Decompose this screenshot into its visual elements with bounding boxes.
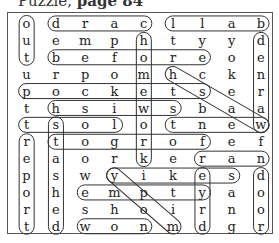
grid-letter: s — [41, 167, 70, 184]
grid-letter: r — [246, 83, 275, 100]
grid-letter: i — [129, 167, 158, 184]
grid-letter: t — [159, 116, 188, 133]
grid-letter: t — [12, 49, 41, 66]
grid-letter: o — [159, 133, 188, 150]
grid-letter: r — [71, 15, 100, 32]
grid-letter: c — [129, 15, 158, 32]
grid-letter: o — [129, 49, 158, 66]
page-title: Puzzle, page 84 — [18, 0, 143, 10]
grid-letter: w — [71, 167, 100, 184]
grid-letter: o — [71, 116, 100, 133]
grid-letter: m — [159, 218, 188, 235]
grid-letter: h — [159, 66, 188, 83]
grid-letter: g — [217, 218, 246, 235]
grid-letter: r — [129, 133, 158, 150]
grid-letter: f — [100, 49, 129, 66]
grid-letter: o — [71, 150, 100, 167]
grid-letter: k — [100, 83, 129, 100]
grid-letter: e — [129, 83, 158, 100]
grid-letter: g — [100, 133, 129, 150]
grid-letter: r — [100, 150, 129, 167]
grid-letter: s — [217, 167, 246, 184]
grid-letter: k — [217, 66, 246, 83]
grid-letter: c — [188, 66, 217, 83]
grid-letter: l — [100, 116, 129, 133]
grid-letter: p — [12, 167, 41, 184]
grid-letter: h — [129, 32, 158, 49]
grid-letter: a — [100, 15, 129, 32]
grid-letter: n — [246, 150, 275, 167]
grid-letter: i — [159, 201, 188, 218]
grid-letter: i — [100, 100, 129, 117]
grid-letter: e — [41, 32, 70, 49]
grid-letter: p — [100, 32, 129, 49]
grid-letter: m — [100, 184, 129, 201]
grid-letter: t — [12, 100, 41, 117]
grid-letter: b — [41, 49, 70, 66]
grid-letter: r — [159, 49, 188, 66]
grid-letter: w — [246, 116, 275, 133]
grid-letter: s — [71, 201, 100, 218]
grid-letter: d — [41, 15, 70, 32]
grid-letter: d — [246, 32, 275, 49]
grid-letter: o — [12, 184, 41, 201]
grid-letter: t — [159, 184, 188, 201]
grid-letter: t — [159, 32, 188, 49]
grid-letter: t — [12, 116, 41, 133]
grid-letter: w — [129, 100, 158, 117]
grid-letter: a — [217, 15, 246, 32]
grid-letter: r — [12, 133, 41, 150]
grid-letter: o — [246, 201, 275, 218]
grid-letter: e — [12, 150, 41, 167]
grid-letter: r — [188, 201, 217, 218]
grid-letter: b — [246, 15, 275, 32]
grid-letter: y — [188, 32, 217, 49]
grid-letter: s — [71, 100, 100, 117]
grid-letter: a — [217, 150, 246, 167]
grid-letter: f — [188, 133, 217, 150]
grid-letter: w — [71, 218, 100, 235]
grid-letter: o — [100, 66, 129, 83]
grid-letter: e — [71, 184, 100, 201]
grid-letter: h — [41, 100, 70, 117]
grid-letter: a — [217, 100, 246, 117]
grid-letter: o — [71, 133, 100, 150]
grid-letter: e — [159, 150, 188, 167]
grid-letter: s — [188, 83, 217, 100]
grid-letter: k — [159, 167, 188, 184]
grid-letter: t — [41, 133, 70, 150]
grid-letter: y — [188, 184, 217, 201]
grid-letter: e — [71, 49, 100, 66]
grid-letter: n — [246, 66, 275, 83]
grid-letter: d — [41, 218, 70, 235]
grid-letter: m — [71, 32, 100, 49]
grid-letter: o — [12, 15, 41, 32]
grid-letter: e — [188, 49, 217, 66]
grid-letter: o — [129, 201, 158, 218]
grid-letter: e — [217, 133, 246, 150]
grid-letter: r — [246, 218, 275, 235]
grid-letter: o — [129, 116, 158, 133]
grid-letter: h — [100, 201, 129, 218]
grid-letter: o — [217, 49, 246, 66]
grid-letter: t — [159, 83, 188, 100]
grid-letter: u — [12, 32, 41, 49]
grid-letter: m — [129, 66, 158, 83]
grid-letter: s — [159, 100, 188, 117]
grid-letter: r — [41, 66, 70, 83]
grid-letter: d — [246, 167, 275, 184]
grid-letter: n — [129, 218, 158, 235]
grid-letter: f — [246, 133, 275, 150]
grid-letter: n — [188, 116, 217, 133]
grid-letter: p — [129, 184, 158, 201]
grid-letter: a — [41, 150, 70, 167]
word-search-grid: odracllabuemphtyydtbeforeoeurpomhcknpock… — [7, 12, 273, 234]
grid-letter: b — [188, 100, 217, 117]
grid-letter: o — [41, 83, 70, 100]
grid-letter: p — [71, 66, 100, 83]
grid-letter: c — [71, 83, 100, 100]
grid-letter: e — [217, 116, 246, 133]
grid-letter: k — [129, 150, 158, 167]
grid-letter: l — [159, 15, 188, 32]
grid-letter: u — [12, 66, 41, 83]
